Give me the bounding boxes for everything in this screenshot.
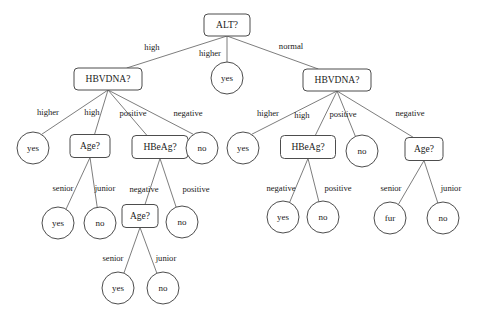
decision-node[interactable]: Age? (70, 135, 110, 158)
node-label: yes (27, 143, 39, 153)
node-label: no (159, 283, 169, 293)
leaf-node[interactable]: no (166, 206, 198, 238)
decision-node[interactable]: Age? (405, 138, 443, 161)
node-label: Age? (414, 144, 434, 154)
node-label: yes (221, 73, 233, 83)
edge-label: junior (440, 183, 462, 193)
node-label: no (178, 217, 188, 227)
decision-node[interactable]: ALT? (204, 14, 250, 36)
edge-label: negative (129, 184, 158, 194)
edge-label: negative (173, 108, 202, 118)
leaf-node[interactable]: no (186, 132, 218, 164)
node-label: Age? (130, 211, 150, 221)
edge-label: higher (37, 107, 59, 117)
leaf-node[interactable]: no (427, 202, 459, 234)
nodes-layer: ALT?HBVDNA?yesHBVDNA?yesAge?HBeAg?noyesH… (17, 14, 459, 304)
node-label: yes (277, 212, 289, 222)
tree-edge (140, 228, 157, 275)
decision-node[interactable]: HBVDNA? (303, 69, 371, 91)
node-label: no (319, 212, 329, 222)
node-label: no (358, 146, 368, 156)
node-label: no (198, 143, 208, 153)
leaf-node[interactable]: yes (102, 272, 134, 304)
tree-edge (160, 159, 177, 209)
node-label: no (96, 218, 106, 228)
leaf-node[interactable]: fur (374, 202, 406, 234)
node-label: yes (237, 143, 249, 153)
decision-node[interactable]: Age? (122, 205, 158, 228)
edge-label: positive (329, 109, 356, 119)
edge-label: higher (199, 48, 221, 58)
leaf-node[interactable]: yes (211, 62, 243, 94)
edge-label: positive (119, 108, 146, 118)
edge-label: junior (155, 253, 177, 263)
node-label: HBeAg? (143, 142, 176, 152)
edge-label: senior (102, 253, 123, 263)
node-label: HBVDNA? (315, 75, 360, 85)
node-label: Age? (80, 141, 100, 151)
leaf-node[interactable]: yes (267, 201, 299, 233)
decision-node[interactable]: HBVDNA? (74, 68, 142, 90)
edge-label: positive (182, 184, 209, 194)
node-label: ALT? (216, 20, 238, 30)
edge-label: higher (257, 108, 279, 118)
node-label: yes (112, 283, 124, 293)
tree-edge (227, 36, 318, 69)
tree-edge (289, 159, 308, 204)
edge-label: normal (279, 41, 304, 51)
edge-label: positive (324, 183, 351, 193)
leaf-node[interactable]: no (346, 135, 378, 167)
edge-label: negative (266, 183, 295, 193)
node-label: HBVDNA? (86, 74, 131, 84)
decision-node[interactable]: HBeAg? (132, 136, 188, 159)
leaf-node[interactable]: no (84, 207, 116, 239)
tree-edge (399, 161, 425, 205)
leaf-node[interactable]: yes (17, 132, 49, 164)
node-label: fur (385, 213, 396, 223)
decision-node[interactable]: HBeAg? (281, 136, 336, 159)
leaf-node[interactable]: yes (42, 207, 74, 239)
node-label: yes (52, 218, 64, 228)
edge-label: junior (94, 183, 116, 193)
tree-edge (308, 159, 319, 204)
tree-edge (424, 161, 438, 205)
edge-label: high (144, 42, 160, 52)
leaf-node[interactable]: no (307, 201, 339, 233)
leaf-node[interactable]: yes (227, 132, 259, 164)
edge-label: senior (380, 183, 401, 193)
node-label: no (439, 213, 449, 223)
tree-edge (145, 159, 160, 205)
node-label: HBeAg? (291, 142, 324, 152)
edge-label: senior (52, 183, 73, 193)
decision-tree-diagram: ALT?HBVDNA?yesHBVDNA?yesAge?HBeAg?noyesH… (0, 0, 480, 323)
edge-label: negative (395, 108, 424, 118)
edge-label: high (294, 110, 310, 120)
leaf-node[interactable]: no (147, 272, 179, 304)
edge-label: high (84, 107, 100, 117)
tree-edge (124, 228, 141, 275)
